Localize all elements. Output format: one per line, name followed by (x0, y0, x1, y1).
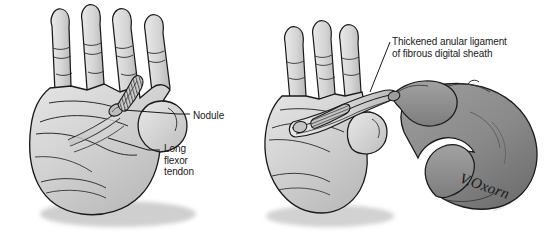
left-middle-finger (82, 5, 104, 94)
left-index-finger (51, 9, 71, 96)
right-index-finger (285, 27, 306, 105)
medical-illustration-figure: Nodule Long flexor tendon Thickened anul… (0, 0, 557, 241)
label-long-flexor-tendon: Long flexor tendon (164, 143, 194, 178)
label-thickened-anular-ligament: Thickened anular ligament of fibrous dig… (392, 36, 507, 60)
right-middle-finger (313, 21, 335, 103)
right-ring-finger (340, 25, 361, 101)
label-nodule: Nodule (193, 110, 224, 122)
ligament-leader-line (370, 42, 390, 92)
left-hand-illustration (30, 5, 196, 227)
right-thumb (347, 112, 387, 154)
